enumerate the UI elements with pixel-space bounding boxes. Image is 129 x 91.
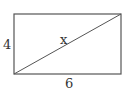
height-label: 4 xyxy=(3,37,11,52)
width-label: 6 xyxy=(65,76,73,91)
diagonal-line xyxy=(14,14,121,74)
diagonal-label: x xyxy=(60,32,68,47)
rectangle-diagram: 4 x 6 xyxy=(0,0,129,91)
